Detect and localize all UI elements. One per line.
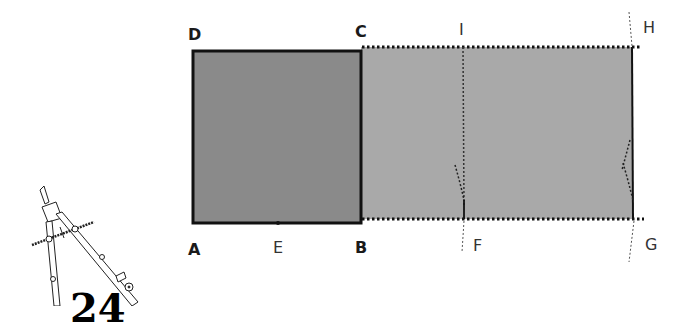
point-e-dot <box>276 221 280 225</box>
extension-rectangle <box>361 47 632 219</box>
label-a: A <box>188 242 200 258</box>
label-g: G <box>645 237 657 253</box>
square-abcd <box>193 51 361 223</box>
label-b: B <box>355 240 367 256</box>
label-i: I <box>459 22 464 38</box>
construction-below-g <box>629 221 634 262</box>
label-d: D <box>188 27 201 43</box>
label-h: H <box>643 20 655 36</box>
line-gh <box>632 47 633 219</box>
label-c: C <box>355 24 367 40</box>
page-number: 24 <box>70 288 126 326</box>
construction-above-h <box>629 12 632 46</box>
construction-below-f <box>462 221 464 252</box>
label-f: F <box>473 238 482 254</box>
label-e: E <box>273 240 283 256</box>
